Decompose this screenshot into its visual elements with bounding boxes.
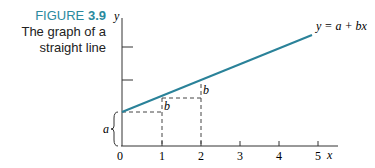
slope-label-1: b bbox=[164, 99, 170, 113]
y-axis-label: y bbox=[113, 9, 120, 23]
x-tick-label-2: 2 bbox=[198, 149, 204, 163]
x-tick-label-1: 1 bbox=[159, 149, 165, 163]
slope-label-2: b bbox=[203, 83, 209, 97]
line-graph: y x 0 1 2 3 4 5 a b b y = a + bx bbox=[0, 0, 375, 168]
intercept-label: a bbox=[103, 122, 109, 136]
x-tick-label-3: 3 bbox=[237, 149, 243, 163]
line-series bbox=[122, 35, 312, 112]
x-tick-label-0: 0 bbox=[117, 149, 123, 163]
x-tick-label-5: 5 bbox=[315, 149, 321, 163]
intercept-brace bbox=[111, 112, 118, 146]
x-axis-label: x bbox=[326, 148, 333, 162]
equation-label: y = a + bx bbox=[315, 19, 368, 33]
x-tick-label-4: 4 bbox=[276, 149, 282, 163]
